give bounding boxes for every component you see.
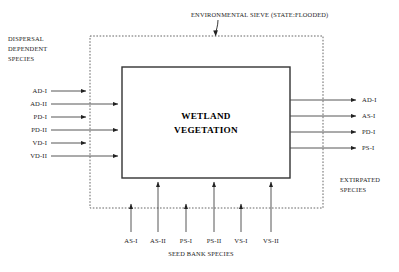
center-box-title-line1: WETLAND bbox=[181, 111, 231, 121]
wetland-vegetation-diagram: AD-I AD-II PD-I PD-II VD-I VD-II AS-I AS… bbox=[0, 0, 399, 272]
sieve-pointer-arrowhead bbox=[213, 30, 218, 36]
center-box-title-line2: VEGETATION bbox=[174, 125, 238, 135]
input-left-label-5: VD-I bbox=[32, 139, 47, 146]
wetland-vegetation-box bbox=[122, 67, 290, 178]
input-bottom-label-4: PS-II bbox=[207, 237, 222, 244]
input-bottom-label-6: VS-II bbox=[263, 237, 279, 244]
dispersal-dependent-label-line3: SPECIES bbox=[8, 55, 35, 62]
input-bottom-label-2: AS-II bbox=[150, 237, 166, 244]
environmental-sieve-caption: ENVIRONMENTAL SIEVE (STATE:FLOODED) bbox=[191, 11, 328, 19]
dispersal-dependent-label-line1: DISPERSAL bbox=[8, 35, 44, 42]
extirpated-species-label-line2: SPECIES bbox=[340, 186, 367, 193]
input-left-label-2: AD-II bbox=[30, 100, 47, 107]
input-left-label-1: AD-I bbox=[32, 87, 47, 94]
output-right-label-1: AD-I bbox=[362, 96, 377, 103]
output-right-label-3: PD-I bbox=[362, 128, 375, 135]
input-left-label-6: VD-II bbox=[30, 152, 47, 159]
extirpated-species-label-line1: EXTIRPATED bbox=[340, 176, 380, 183]
dispersal-dependent-label-line2: DEPENDENT bbox=[8, 45, 47, 52]
input-left-label-3: PD-I bbox=[34, 113, 47, 120]
input-bottom-label-3: PS-I bbox=[180, 237, 192, 244]
diagram-canvas: AD-I AD-II PD-I PD-II VD-I VD-II AS-I AS… bbox=[0, 0, 399, 272]
seed-bank-species-label: SEED BANK SPECIES bbox=[168, 250, 234, 257]
input-left-label-4: PD-II bbox=[31, 126, 47, 133]
input-bottom-label-1: AS-I bbox=[124, 237, 137, 244]
input-bottom-label-5: VS-I bbox=[234, 237, 247, 244]
output-right-label-2: AS-I bbox=[362, 112, 375, 119]
output-right-label-4: PS-I bbox=[362, 144, 374, 151]
